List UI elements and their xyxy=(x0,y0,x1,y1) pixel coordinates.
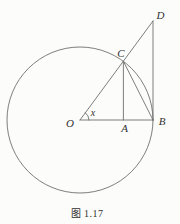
angle-label-x: x xyxy=(90,107,96,118)
figure-1-17: O x A B C D 图 1.17 xyxy=(0,0,180,224)
geometry-canvas: O x A B C D 图 1.17 xyxy=(0,0,180,224)
point-label-A: A xyxy=(120,122,128,134)
figure-caption: 图 1.17 xyxy=(71,208,104,219)
point-label-C: C xyxy=(117,47,125,59)
point-label-O: O xyxy=(66,117,74,129)
point-label-D: D xyxy=(156,9,165,21)
point-label-B: B xyxy=(159,115,166,127)
